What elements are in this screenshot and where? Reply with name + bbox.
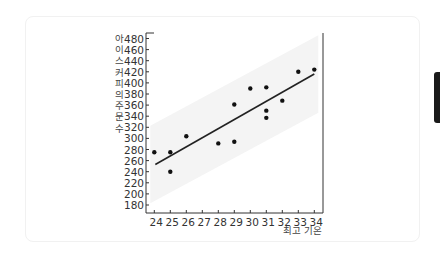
y-tick-label: 320 <box>124 121 144 133</box>
data-point <box>280 98 284 102</box>
x-tick-label: 31 <box>262 216 275 228</box>
y-axis-title-char: 의 <box>115 89 124 100</box>
y-tick-label: 180 <box>124 199 144 211</box>
y-axis-title-char: 이 <box>115 44 124 55</box>
y-tick-label: 360 <box>124 99 144 111</box>
y-axis-title-char: 주 <box>115 100 124 111</box>
x-tick-label: 24 <box>150 216 164 228</box>
x-tick-label: 30 <box>246 216 259 228</box>
data-point <box>264 108 268 112</box>
y-axis-title: 아이스커피의주문수 <box>115 33 124 134</box>
x-tick-label: 26 <box>182 216 196 228</box>
y-tick-label: 340 <box>124 110 144 122</box>
data-point <box>264 116 268 120</box>
y-tick-label: 380 <box>124 88 144 100</box>
data-point <box>232 140 236 144</box>
data-point <box>184 134 188 138</box>
y-axis-title-char: 스 <box>115 55 124 66</box>
x-tick-label: 28 <box>214 216 227 228</box>
data-point <box>296 70 300 74</box>
x-tick-label: 29 <box>230 216 243 228</box>
data-point <box>168 150 172 154</box>
y-axis-title-char: 피 <box>115 78 124 89</box>
y-tick-label: 460 <box>124 44 144 56</box>
x-tick-label: 27 <box>198 216 211 228</box>
y-tick-label: 280 <box>124 144 144 156</box>
y-tick-label: 240 <box>124 166 144 178</box>
x-axis-title: 최고 기온 <box>283 225 322 236</box>
data-point <box>152 150 156 154</box>
y-tick-label: 480 <box>124 33 144 45</box>
y-axis-title-char: 아 <box>115 33 124 44</box>
data-point <box>232 102 236 106</box>
y-tick-label: 260 <box>124 155 144 167</box>
data-point <box>264 85 268 89</box>
y-tick-label: 220 <box>124 177 144 189</box>
data-point <box>248 86 252 90</box>
y-axis-title-char: 커 <box>115 67 124 78</box>
y-axis-title-char: 문 <box>115 111 124 122</box>
y-tick-label: 200 <box>124 188 144 200</box>
y-tick-label: 420 <box>124 66 144 78</box>
data-point <box>312 67 316 71</box>
data-point <box>216 141 220 145</box>
y-tick-label: 400 <box>124 77 144 89</box>
data-point <box>168 170 172 174</box>
x-tick-label: 25 <box>166 216 179 228</box>
y-axis-ticks: 1802002202402602803003203403603804004204… <box>124 33 149 212</box>
y-tick-label: 300 <box>124 132 144 144</box>
y-axis-title-char: 수 <box>115 123 124 134</box>
y-tick-label: 440 <box>124 55 144 67</box>
